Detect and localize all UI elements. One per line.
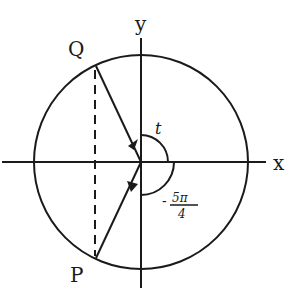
angle-neg-numerator: 5π xyxy=(172,191,189,205)
angle-t-arc xyxy=(141,135,168,162)
angle-neg-sign: - xyxy=(162,193,167,209)
arrow-t-icon xyxy=(128,139,138,150)
unit-circle-diagram: y x Q P t - 5π 4 xyxy=(0,0,304,294)
angle-t-label: t xyxy=(155,119,162,138)
segment-OP xyxy=(96,162,141,258)
x-axis-label: x xyxy=(273,151,285,175)
angle-neg-arc xyxy=(141,162,174,195)
point-Q-label: Q xyxy=(68,37,84,61)
y-axis-label: y xyxy=(134,12,147,36)
angle-neg-denominator: 4 xyxy=(177,207,186,221)
point-P-label: P xyxy=(70,263,83,287)
